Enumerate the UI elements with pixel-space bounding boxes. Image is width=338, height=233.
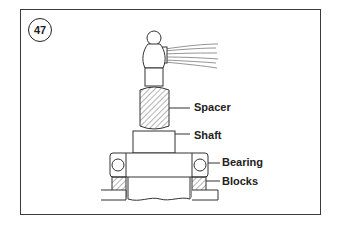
- hammer-icon: [143, 31, 218, 86]
- blocks-part: [101, 177, 218, 200]
- press-fit-diagram: [0, 0, 338, 233]
- bearing-part: [110, 153, 208, 177]
- shaft-part: [133, 131, 175, 153]
- spacer-part: [140, 87, 169, 129]
- spacer-label: Spacer: [194, 102, 231, 113]
- bearing-label: Bearing: [222, 157, 263, 168]
- shaft-label: Shaft: [194, 130, 222, 141]
- blocks-label: Blocks: [222, 176, 258, 187]
- shaft-lower: [128, 177, 190, 200]
